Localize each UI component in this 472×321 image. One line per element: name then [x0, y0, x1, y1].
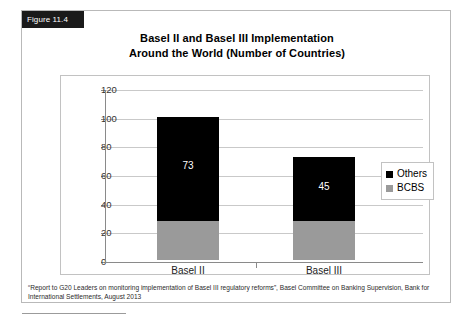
x-axis-label-basel-ii: Basel II — [141, 266, 235, 276]
figure-source-note: “Report to G20 Leaders on monitoring imp… — [28, 283, 448, 301]
plot-area: 120 100 80 60 40 20 0 73 4 — [60, 75, 430, 275]
bar-basel-ii: 73 — [157, 117, 219, 260]
x-axis-label-basel-iii: Basel III — [277, 266, 371, 276]
bar-value-others-basel-iii: 45 — [293, 182, 355, 192]
legend-item-bcbs: BCBS — [386, 181, 427, 195]
y-axis-line — [105, 90, 106, 262]
chart-legend: Others BCBS — [381, 162, 434, 200]
bar-value-others-basel-ii: 73 — [157, 161, 219, 171]
gridline-80 — [105, 147, 423, 148]
legend-label-others: Others — [397, 169, 427, 179]
legend-label-bcbs: BCBS — [397, 183, 424, 193]
bar-segment-bcbs-basel-ii — [157, 221, 219, 260]
chart-title-line-2: Around the World (Number of Countries) — [22, 46, 452, 61]
bar-segment-bcbs-basel-iii — [293, 221, 355, 260]
bar-segment-others-basel-ii: 73 — [157, 117, 219, 222]
chart-title: Basel II and Basel III Implementation Ar… — [22, 31, 452, 60]
chart-title-line-1: Basel II and Basel III Implementation — [22, 31, 452, 46]
gridline-100 — [105, 119, 423, 120]
bar-segment-others-basel-iii: 45 — [293, 157, 355, 222]
figure-number-label: Figure 11.4 — [22, 11, 84, 28]
category-separator — [256, 262, 257, 268]
gridline-60 — [105, 176, 423, 177]
gridline-120 — [105, 90, 423, 91]
figure-container: Figure 11.4 Basel II and Basel III Imple… — [21, 10, 451, 303]
gridline-20 — [105, 233, 423, 234]
x-axis-line — [105, 262, 423, 263]
legend-item-others: Others — [386, 167, 427, 181]
legend-swatch-others-icon — [386, 171, 393, 178]
legend-swatch-bcbs-icon — [386, 185, 393, 192]
bar-basel-iii: 45 — [293, 157, 355, 260]
gridline-40 — [105, 205, 423, 206]
footnote-separator-rule — [22, 313, 126, 314]
